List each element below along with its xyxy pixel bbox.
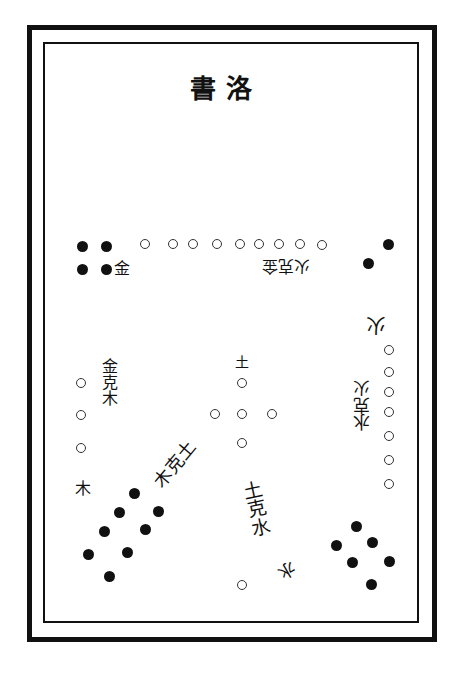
yin-dot [122,547,133,558]
label-metal: 金 [114,261,130,277]
yang-dot [384,455,394,465]
yin-dot [140,524,151,535]
yang-dot [317,240,327,250]
yang-dot [295,239,305,249]
yin-dot [351,521,362,532]
yang-dot [76,410,86,420]
yang-dot [168,239,178,249]
yang-dot [140,239,150,249]
label-fire: 火 [366,315,386,335]
label-water-overcomes-fire: 水克火 [354,380,371,431]
yang-dot [237,409,247,419]
yin-dot [347,557,358,568]
yang-dot [384,387,394,397]
yin-dot [153,506,164,517]
yang-dot [384,407,394,417]
inner-frame [43,42,419,623]
yang-dot [210,409,220,419]
yang-dot [384,345,394,355]
yin-dot [114,507,125,518]
yang-dot [212,239,222,249]
yin-dot [83,549,94,560]
label-earth: 土 [235,355,249,369]
label-wood: 木 [75,481,91,497]
yang-dot [235,239,245,249]
yin-dot [383,239,394,250]
diagram-title: 書洛 [190,68,262,105]
yin-dot [129,488,140,499]
yang-dot [237,378,247,388]
yin-dot [366,579,377,590]
yin-dot [101,241,112,252]
yin-dot [101,264,112,275]
yang-dot [237,438,247,448]
yin-dot [99,526,110,537]
yang-dot [188,239,198,249]
yin-dot [384,556,395,567]
yang-dot [384,479,394,489]
yin-dot [77,264,88,275]
yin-dot [367,537,378,548]
yang-dot [384,431,394,441]
yin-dot [363,258,374,269]
yang-dot [254,239,264,249]
yang-dot [267,409,277,419]
yin-dot [104,571,115,582]
label-metal-overcomes-wood: 金克木 [100,358,116,406]
yang-dot-bottom [237,580,247,590]
yang-dot [274,239,284,249]
yin-dot [77,241,88,252]
yang-dot [76,378,86,388]
yin-dot [331,540,342,551]
yang-dot [384,367,394,377]
yang-dot [76,443,86,453]
label-fire-overcomes-metal: 火克金 [262,258,310,274]
